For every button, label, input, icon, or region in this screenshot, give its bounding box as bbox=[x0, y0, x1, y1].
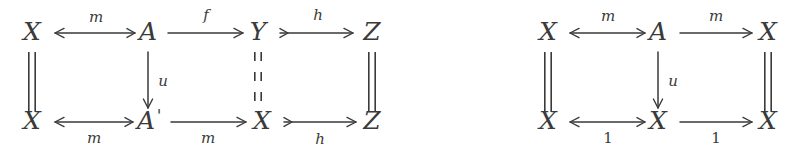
arrow-top-f: f bbox=[168, 6, 243, 38]
node-x-bottom: X bbox=[21, 106, 42, 135]
node-prime-mark: ' bbox=[157, 105, 162, 125]
identity-bar-left bbox=[545, 52, 551, 112]
node-label: Y bbox=[250, 17, 269, 46]
identity-bar-right bbox=[369, 52, 375, 112]
arrow-vertical-u: u bbox=[653, 52, 677, 108]
arrow-bottom-h: h bbox=[284, 117, 356, 148]
edge-label: m bbox=[89, 8, 103, 26]
node-a-prime-bottom: A' bbox=[135, 105, 161, 135]
arrow-bottom-m-right: m bbox=[171, 117, 246, 147]
left-commutative-square: mfhmmhuXAYZXA'XZ bbox=[21, 6, 381, 148]
node-label: X bbox=[647, 106, 668, 135]
arrow-bottom-one-right: 1 bbox=[680, 117, 752, 147]
edge-label: 1 bbox=[711, 129, 721, 147]
arrow-top-m-left: m bbox=[55, 8, 135, 38]
arrow-bottom-m-left: m bbox=[55, 117, 133, 147]
node-a-top: A bbox=[137, 17, 157, 46]
diagram-svg: mfhmmhuXAYZXA'XZmm11uXAXXXX bbox=[0, 0, 805, 151]
node-x-bottom: X bbox=[757, 106, 778, 135]
node-z-bottom: Z bbox=[362, 106, 381, 135]
node-label: X bbox=[757, 17, 778, 46]
arrow-top-m-left: m bbox=[570, 7, 645, 38]
edge-label: m bbox=[87, 129, 101, 147]
node-label: X bbox=[757, 106, 778, 135]
node-x-top: X bbox=[21, 17, 42, 46]
node-label: X bbox=[537, 106, 558, 135]
arrow-bottom-one-left: 1 bbox=[570, 117, 645, 147]
arrow-top-m-right: m bbox=[680, 7, 752, 38]
node-z-top: Z bbox=[362, 17, 381, 46]
node-label: X bbox=[21, 106, 42, 135]
node-label: A bbox=[647, 17, 667, 46]
identity-bar-left bbox=[29, 52, 35, 112]
edge-label: 1 bbox=[603, 129, 613, 147]
edge-label: u bbox=[158, 72, 168, 90]
arrow-vertical-u: u bbox=[143, 52, 167, 108]
node-label: X bbox=[21, 17, 42, 46]
node-label: A bbox=[137, 17, 157, 46]
node-x-top: X bbox=[537, 17, 558, 46]
node-a-top: A bbox=[647, 17, 667, 46]
identity-bar-right bbox=[765, 52, 771, 112]
node-label: A bbox=[135, 106, 155, 135]
right-commutative-square: mm11uXAXXXX bbox=[537, 7, 778, 147]
node-x-bottom: X bbox=[251, 106, 272, 135]
diagram-canvas: mfhmmhuXAYZXA'XZmm11uXAXXXX bbox=[0, 0, 805, 151]
node-label: Z bbox=[362, 106, 381, 135]
identity-bar-middle bbox=[255, 52, 261, 112]
edge-label: h bbox=[313, 6, 323, 24]
edge-label: m bbox=[709, 7, 723, 25]
edge-label: u bbox=[668, 72, 678, 90]
node-label: X bbox=[251, 106, 272, 135]
node-x-bottom: X bbox=[537, 106, 558, 135]
arrow-top-h: h bbox=[280, 6, 353, 38]
node-x-bottom: X bbox=[647, 106, 668, 135]
edge-label: f bbox=[202, 6, 211, 24]
edge-label: h bbox=[315, 130, 325, 148]
node-x-top: X bbox=[757, 17, 778, 46]
node-y-top: Y bbox=[250, 17, 269, 46]
node-label: Z bbox=[362, 17, 381, 46]
node-label: X bbox=[537, 17, 558, 46]
edge-label: m bbox=[601, 7, 615, 25]
edge-label: m bbox=[201, 129, 215, 147]
